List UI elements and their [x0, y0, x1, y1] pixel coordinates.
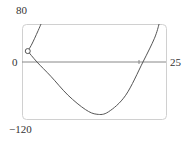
open-circle-marker	[25, 49, 30, 54]
upper-branch-curve	[28, 24, 41, 51]
plot-area	[0, 0, 192, 142]
plot-frame	[23, 25, 167, 120]
lower-branch-curve	[28, 24, 159, 115]
